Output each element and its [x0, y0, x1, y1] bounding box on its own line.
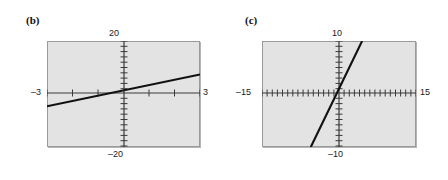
panel-c-plot — [262, 41, 416, 147]
panel-b-y-min-label: –20 — [108, 150, 123, 159]
panel-c-x-max-label: 15 — [420, 88, 430, 97]
panel-b: (b) — [0, 0, 224, 180]
panel-b-label: (b) — [26, 15, 39, 26]
panel-b-plot-canvas — [47, 41, 200, 147]
panel-c-y-max-label: 10 — [332, 29, 342, 38]
panel-c-plot-canvas — [262, 41, 416, 147]
figure-root: (b) — [0, 0, 448, 180]
panel-b-y-max-label: 20 — [109, 29, 119, 38]
panel-c-label: (c) — [245, 15, 257, 26]
panel-b-plot — [47, 41, 200, 147]
panel-b-x-max-label: 3 — [203, 88, 208, 97]
panel-c-y-min-label: –10 — [328, 150, 343, 159]
panel-c-x-min-label: –15 — [236, 88, 251, 97]
panel-c: (c) — [224, 0, 448, 180]
panel-b-x-min-label: –3 — [31, 88, 41, 97]
